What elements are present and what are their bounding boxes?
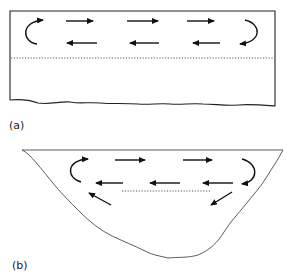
panel-b-basin-outline: [22, 150, 283, 258]
diagram-canvas: (a) (b): [0, 0, 291, 280]
curl-arrow-icon: [242, 159, 255, 184]
arrow-up-left-icon: [89, 193, 111, 205]
panel-a: (a): [9, 11, 275, 132]
curl-arrow-icon: [240, 20, 257, 44]
curl-arrow-icon: [71, 159, 88, 182]
panel-a-label: (a): [9, 119, 24, 132]
panel-a-basin-outline: [10, 11, 275, 106]
panel-b: (b): [12, 150, 283, 272]
curl-arrow-icon: [26, 20, 43, 44]
panel-b-label: (b): [12, 259, 28, 272]
arrow-down-left-icon: [211, 192, 232, 205]
